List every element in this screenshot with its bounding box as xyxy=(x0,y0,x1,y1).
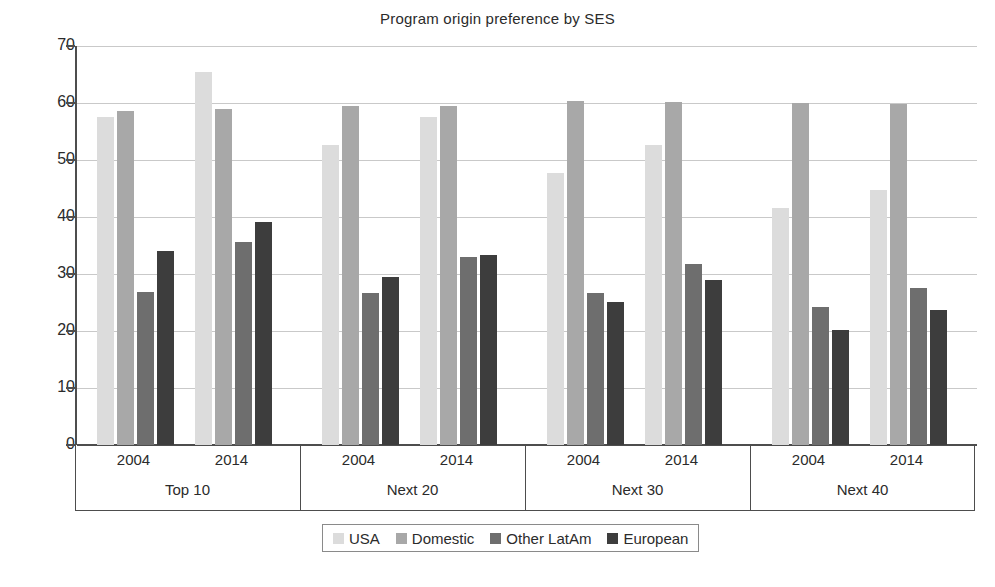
x-axis-separator xyxy=(75,445,76,511)
bar xyxy=(215,109,232,445)
bar xyxy=(685,264,702,445)
bar xyxy=(645,145,662,445)
bar xyxy=(665,102,682,445)
bar xyxy=(235,242,252,445)
plot-area xyxy=(75,46,975,445)
bar xyxy=(832,330,849,445)
x-axis-year-label: 2014 xyxy=(422,451,492,468)
bar xyxy=(547,173,564,445)
bar xyxy=(157,251,174,445)
legend-item: Other LatAm xyxy=(490,530,591,547)
legend-label: USA xyxy=(349,530,380,547)
bar xyxy=(255,222,272,445)
bar xyxy=(772,208,789,445)
x-axis-group-label: Next 30 xyxy=(525,481,750,498)
y-axis: 706050403020100 xyxy=(0,0,75,587)
bar xyxy=(567,101,584,445)
legend-swatch-icon xyxy=(396,533,407,544)
x-axis-year-label: 2014 xyxy=(647,451,717,468)
y-axis-tick-mark xyxy=(66,216,75,218)
y-axis-tick-mark xyxy=(66,330,75,332)
bar xyxy=(910,288,927,445)
bar xyxy=(195,72,212,445)
x-axis-group-label: Next 40 xyxy=(750,481,975,498)
bar xyxy=(117,111,134,445)
legend-label: Domestic xyxy=(412,530,475,547)
bar xyxy=(480,255,497,445)
bar xyxy=(890,104,907,445)
legend-item: European xyxy=(607,530,688,547)
bar xyxy=(930,310,947,445)
x-axis-year-label: 2004 xyxy=(324,451,394,468)
x-axis-year-label: 2004 xyxy=(549,451,619,468)
bar xyxy=(137,292,154,445)
bars-layer xyxy=(77,46,977,445)
y-axis-tick-mark xyxy=(66,102,75,104)
bar xyxy=(792,103,809,445)
x-axis-group-label: Next 20 xyxy=(300,481,525,498)
y-axis-tick-mark xyxy=(66,273,75,275)
chart-legend: USADomesticOther LatAmEuropean xyxy=(322,524,699,552)
x-axis-year-label: 2004 xyxy=(774,451,844,468)
y-axis-tick-mark xyxy=(66,387,75,389)
legend-item: USA xyxy=(333,530,380,547)
chart-title: Program origin preference by SES xyxy=(0,10,995,27)
bar xyxy=(460,257,477,445)
x-axis-separator xyxy=(525,445,526,511)
bar xyxy=(705,280,722,445)
legend-label: Other LatAm xyxy=(506,530,591,547)
legend-swatch-icon xyxy=(490,533,501,544)
x-axis-year-label: 2014 xyxy=(197,451,267,468)
x-axis-separator xyxy=(750,445,751,511)
bar xyxy=(607,302,624,445)
x-axis-year-label: 2014 xyxy=(872,451,942,468)
y-axis-tick-mark xyxy=(66,444,75,446)
bar xyxy=(440,106,457,445)
x-axis-year-label: 2004 xyxy=(99,451,169,468)
legend-swatch-icon xyxy=(607,533,618,544)
legend-label: European xyxy=(623,530,688,547)
bar xyxy=(587,293,604,445)
bar xyxy=(362,293,379,445)
bar xyxy=(97,117,114,445)
bar xyxy=(420,117,437,445)
bar xyxy=(342,106,359,445)
bar xyxy=(382,277,399,445)
bar xyxy=(812,307,829,446)
legend-swatch-icon xyxy=(333,533,344,544)
x-axis-group-label: Top 10 xyxy=(75,481,300,498)
bar xyxy=(870,190,887,445)
y-axis-tick-mark xyxy=(66,159,75,161)
x-axis-separator xyxy=(300,445,301,511)
x-axis: 20042014Top 1020042014Next 2020042014Nex… xyxy=(75,445,975,511)
y-axis-tick-mark xyxy=(66,45,75,47)
bar xyxy=(322,145,339,445)
chart-container: Program origin preference by SES 7060504… xyxy=(0,0,995,587)
x-axis-separator xyxy=(974,445,975,511)
legend-item: Domestic xyxy=(396,530,475,547)
